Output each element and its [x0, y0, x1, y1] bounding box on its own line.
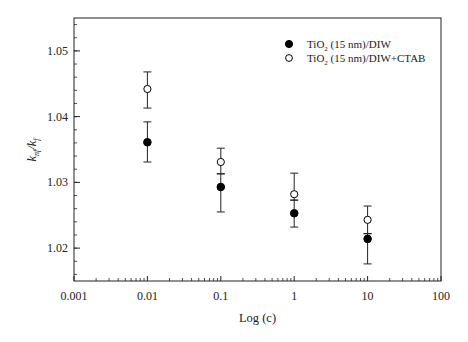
x-tick-label: 10 [362, 289, 374, 303]
series-diw-ctab [143, 72, 371, 234]
legend-label-diw: TiO2 (15 nm)/DIW [307, 38, 391, 53]
data-point [291, 191, 298, 198]
y-tick-label: 1.05 [47, 44, 68, 58]
y-tick-label: 1.04 [47, 110, 68, 124]
series-group [143, 72, 371, 264]
y-axis-title: knf/kf [25, 137, 41, 162]
x-tick-label: 1 [291, 289, 297, 303]
x-axis-title: Log (c) [239, 311, 276, 325]
data-point [217, 158, 224, 165]
data-point [217, 183, 225, 191]
y-axis: 1.021.031.041.05 [47, 25, 80, 275]
series-diw [143, 122, 371, 264]
legend-marker-filled [285, 40, 292, 47]
legend: TiO2 (15 nm)/DIW TiO2 (15 nm)/DIW+CTAB [285, 38, 425, 67]
legend-marker-open [286, 55, 293, 62]
data-point [144, 138, 152, 146]
y-tick-label: 1.03 [47, 175, 68, 189]
data-point [364, 216, 371, 223]
legend-label-diw-ctab: TiO2 (15 nm)/DIW+CTAB [307, 52, 425, 67]
legend-item-diw-ctab: TiO2 (15 nm)/DIW+CTAB [286, 52, 426, 67]
data-point [290, 209, 298, 217]
data-point [364, 235, 372, 243]
legend-item-diw: TiO2 (15 nm)/DIW [285, 38, 391, 53]
x-tick-label: 0.1 [213, 289, 228, 303]
data-point [144, 85, 151, 92]
svg-text:knf/kf: knf/kf [25, 137, 41, 162]
x-tick-label: 0.001 [61, 289, 88, 303]
y-tick-label: 1.02 [47, 241, 68, 255]
x-tick-label: 100 [432, 289, 450, 303]
x-axis: 0.0010.010.1110100 [61, 276, 451, 303]
x-tick-label: 0.01 [137, 289, 158, 303]
chart: 0.0010.010.1110100 1.021.031.041.05 Log … [0, 0, 468, 342]
